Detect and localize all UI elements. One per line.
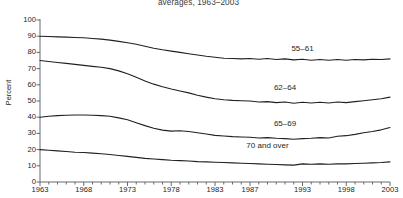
series-line-0 xyxy=(40,36,390,60)
series-line-2 xyxy=(40,115,390,139)
series-line-1 xyxy=(40,61,390,104)
series-line-3 xyxy=(40,150,390,166)
